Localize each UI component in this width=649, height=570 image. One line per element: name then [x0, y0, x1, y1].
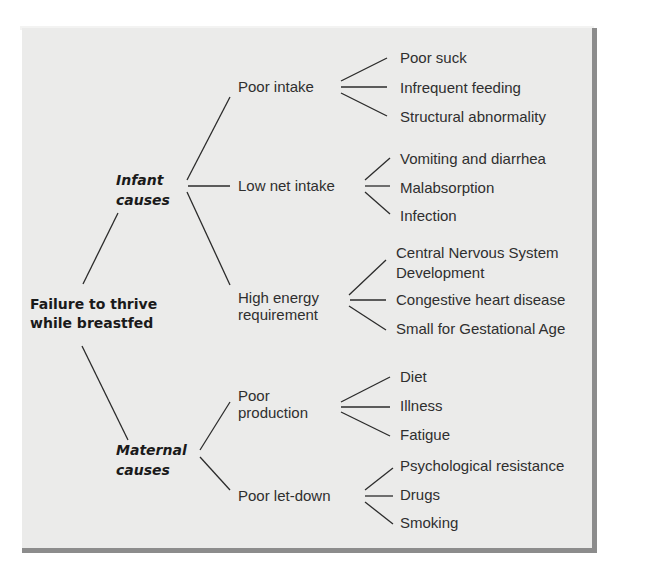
root-node-line1: Failure to thrive [30, 295, 157, 313]
connector-small-for-gestational-age [349, 306, 386, 330]
branch-poor-production-line1: Poor [238, 387, 270, 405]
connector-vomiting [365, 158, 390, 180]
category-infant-line2: causes [116, 191, 170, 209]
leaf-cns-line2: Development [396, 264, 484, 282]
leaf-illness: Illness [400, 397, 443, 415]
branch-poor-production-line2: production [238, 404, 308, 422]
leaf-smoking: Smoking [400, 514, 458, 532]
connector-maternal-poor-production [200, 402, 230, 450]
connector-infant-high-energy [187, 192, 230, 285]
connector-smoking [365, 502, 393, 524]
leaf-malabsorption: Malabsorption [400, 179, 494, 197]
leaf-infection: Infection [400, 207, 457, 225]
leaf-drugs: Drugs [400, 486, 440, 504]
leaf-structural-abnormality: Structural abnormality [400, 108, 546, 126]
connector-root-maternal [82, 346, 128, 440]
connector-maternal-poor-let-down [200, 457, 230, 490]
leaf-vomiting-diarrhea: Vomiting and diarrhea [400, 150, 546, 168]
root-node-line2: while breastfed [30, 314, 153, 332]
connector-lines [0, 0, 649, 570]
connector-structural-abnormality [341, 93, 387, 116]
branch-high-energy-line2: requirement [238, 306, 318, 324]
category-infant-line1: Infant [116, 171, 163, 189]
leaf-psychological-resistance: Psychological resistance [400, 457, 564, 475]
connector-fatigue [341, 412, 390, 436]
connector-infection [365, 192, 390, 214]
leaf-fatigue: Fatigue [400, 426, 450, 444]
connector-infant-poor-intake [187, 97, 230, 180]
leaf-cns-line1: Central Nervous System [396, 244, 559, 262]
connector-root-infant [83, 213, 118, 284]
connector-diet [341, 377, 390, 402]
branch-poor-let-down: Poor let-down [238, 487, 331, 505]
branch-low-net-intake: Low net intake [238, 177, 335, 195]
branch-high-energy-line1: High energy [238, 289, 319, 307]
connector-poor-suck [341, 58, 387, 81]
leaf-poor-suck: Poor suck [400, 49, 467, 67]
branch-poor-intake: Poor intake [238, 78, 314, 96]
category-maternal-line2: causes [116, 461, 170, 479]
leaf-diet: Diet [400, 368, 427, 386]
connector-cns-development [349, 260, 386, 295]
leaf-infrequent-feeding: Infrequent feeding [400, 79, 521, 97]
connector-psychological [365, 468, 393, 490]
leaf-congestive-heart-disease: Congestive heart disease [396, 291, 565, 309]
category-maternal-line1: Maternal [116, 441, 187, 459]
leaf-small-for-gestational-age: Small for Gestational Age [396, 320, 565, 338]
